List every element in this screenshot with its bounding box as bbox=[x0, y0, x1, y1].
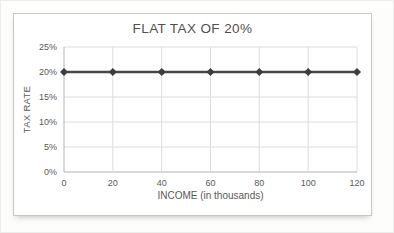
x-tick-label: 0 bbox=[61, 178, 66, 188]
y-tick-label: 10% bbox=[39, 117, 57, 127]
data-point-marker bbox=[304, 68, 312, 76]
data-point-marker bbox=[207, 68, 215, 76]
chart-container: FLAT TAX OF 20% 0%5%10%15%20%25%02040608… bbox=[13, 13, 372, 216]
data-point-marker bbox=[255, 68, 263, 76]
y-tick-label: 5% bbox=[44, 142, 57, 152]
x-axis-title: INCOME (in thousands) bbox=[64, 190, 357, 201]
x-tick-label: 20 bbox=[108, 178, 118, 188]
x-tick-label: 100 bbox=[301, 178, 316, 188]
data-point-marker bbox=[60, 68, 68, 76]
scanned-page-background: FLAT TAX OF 20% 0%5%10%15%20%25%02040608… bbox=[0, 0, 394, 233]
y-axis-title: TAX RATE bbox=[22, 86, 33, 133]
x-tick-label: 120 bbox=[349, 178, 364, 188]
x-tick-label: 60 bbox=[205, 178, 215, 188]
data-point-marker bbox=[353, 68, 361, 76]
data-point-marker bbox=[109, 68, 117, 76]
y-tick-label: 20% bbox=[39, 67, 57, 77]
y-tick-label: 0% bbox=[44, 167, 57, 177]
y-tick-label: 25% bbox=[39, 42, 57, 52]
chart-plot-area: 0%5%10%15%20%25%020406080100120 bbox=[14, 14, 371, 215]
y-tick-label: 15% bbox=[39, 92, 57, 102]
data-point-marker bbox=[158, 68, 166, 76]
x-tick-label: 80 bbox=[254, 178, 264, 188]
y-axis-title-container: TAX RATE bbox=[18, 47, 36, 172]
x-tick-label: 40 bbox=[157, 178, 167, 188]
